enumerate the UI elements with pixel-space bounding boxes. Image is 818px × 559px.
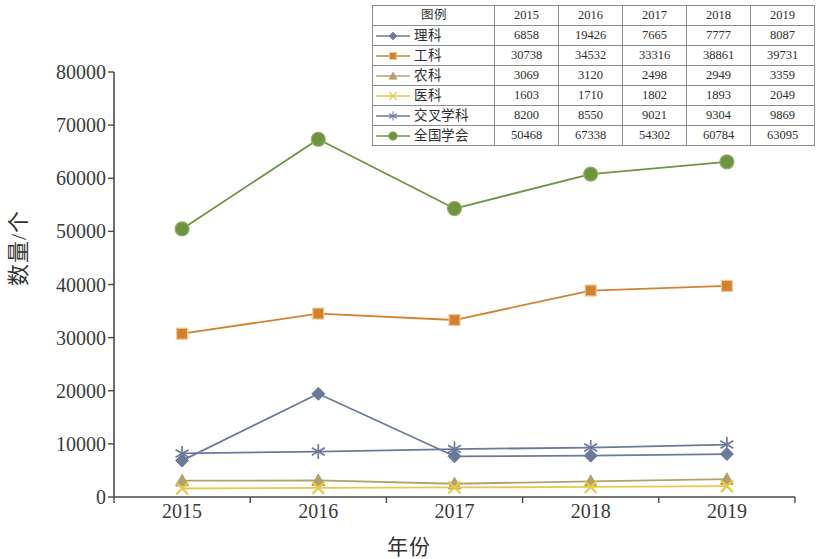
legend-value-理科-2017: 7665	[623, 26, 687, 46]
legend-value-农科-2016: 3120	[559, 66, 623, 86]
legend-value-农科-2017: 2498	[623, 66, 687, 86]
legend-value-农科-2019: 3359	[751, 66, 815, 86]
legend-marker-circle-icon	[376, 129, 410, 143]
datapoint-全国学会-2018	[584, 167, 598, 181]
legend-name-cell-交叉学科: 交叉学科	[373, 106, 495, 126]
marker-circle	[448, 202, 462, 216]
legend-marker-asterisk-icon	[376, 109, 410, 123]
legend-name-cell-理科: 理科	[373, 26, 495, 46]
marker-square	[313, 308, 324, 319]
legend-value-工科-2017: 33316	[623, 46, 687, 66]
legend-header-2019: 2019	[751, 6, 815, 26]
legend-row-工科: 工科3073834532333163886139731	[373, 46, 815, 66]
datapoint-理科-2016	[312, 387, 325, 400]
legend-row-交叉学科: 交叉学科82008550902193049869	[373, 106, 815, 126]
legend-series-label: 农科	[414, 66, 441, 85]
legend-marker-diamond-icon	[376, 29, 410, 43]
legend-value-工科-2018: 38861	[687, 46, 751, 66]
y-tick-70000: 70000	[6, 114, 106, 137]
legend-value-农科-2015: 3069	[495, 66, 559, 86]
legend-series-label: 交叉学科	[414, 106, 468, 125]
legend-value-工科-2015: 30738	[495, 46, 559, 66]
legend-series-label: 全国学会	[414, 126, 468, 145]
y-tick-60000: 60000	[6, 167, 106, 190]
datapoint-工科-2018	[585, 285, 596, 296]
legend-value-交叉学科-2018: 9304	[687, 106, 751, 126]
legend-value-医科-2015: 1603	[495, 86, 559, 106]
legend-value-医科-2016: 1710	[559, 86, 623, 106]
series-line-工科	[182, 286, 727, 334]
legend-marker-svg	[376, 69, 410, 83]
legend-header-2018: 2018	[687, 6, 751, 26]
legend-value-理科-2018: 7777	[687, 26, 751, 46]
legend-marker-svg	[376, 129, 410, 143]
legend-value-全国学会-2019: 63095	[751, 126, 815, 146]
datapoint-全国学会-2016	[311, 132, 325, 146]
legend-value-交叉学科-2015: 8200	[495, 106, 559, 126]
legend-name-cell-农科: 农科	[373, 66, 495, 86]
legend-marker-svg	[376, 49, 410, 63]
y-tick-10000: 10000	[6, 432, 106, 455]
legend-table-body: 理科685819426766577778087工科307383453233316…	[373, 26, 815, 146]
marker-square	[177, 328, 188, 339]
legend-value-理科-2019: 8087	[751, 26, 815, 46]
datapoint-工科-2015	[177, 328, 188, 339]
legend-value-交叉学科-2017: 9021	[623, 106, 687, 126]
legend-value-农科-2018: 2949	[687, 66, 751, 86]
legend-value-全国学会-2016: 67338	[559, 126, 623, 146]
x-tick-2015: 2015	[122, 500, 242, 523]
marker-square	[585, 285, 596, 296]
marker-circle	[175, 222, 189, 236]
legend-value-交叉学科-2019: 9869	[751, 106, 815, 126]
legend-header-2017: 2017	[623, 6, 687, 26]
datapoint-全国学会-2019	[720, 155, 734, 169]
legend-series-label: 医科	[414, 86, 441, 105]
legend-value-理科-2016: 19426	[559, 26, 623, 46]
datapoint-工科-2016	[313, 308, 324, 319]
legend-series-label: 工科	[414, 46, 441, 65]
series-全国学会	[175, 132, 734, 236]
legend-marker-square-icon	[376, 49, 410, 63]
marker-circle	[720, 155, 734, 169]
legend-value-理科-2015: 6858	[495, 26, 559, 46]
legend-value-全国学会-2017: 54302	[623, 126, 687, 146]
legend-name-cell-医科: 医科	[373, 86, 495, 106]
series-工科	[177, 280, 733, 339]
datapoint-工科-2017	[449, 315, 460, 326]
legend-value-工科-2016: 34532	[559, 46, 623, 66]
x-tick-2016: 2016	[258, 500, 378, 523]
legend-header-row: 图例 2015 2016 2017 2018 2019	[373, 6, 815, 26]
y-tick-0: 0	[6, 486, 106, 509]
legend-row-理科: 理科685819426766577778087	[373, 26, 815, 46]
legend-header-label: 图例	[373, 6, 495, 26]
legend-row-农科: 农科30693120249829493359	[373, 66, 815, 86]
chart-figure: 0100002000030000400005000060000700008000…	[0, 0, 818, 559]
legend-data-table: 图例 2015 2016 2017 2018 2019 理科6858194267…	[372, 5, 815, 146]
legend-marker-svg	[376, 29, 410, 43]
x-tick-2018: 2018	[531, 500, 651, 523]
legend-value-医科-2019: 2049	[751, 86, 815, 106]
legend-header-2015: 2015	[495, 6, 559, 26]
marker-square	[449, 315, 460, 326]
legend-header-2016: 2016	[559, 6, 623, 26]
marker-circle	[311, 132, 325, 146]
y-tick-20000: 20000	[6, 379, 106, 402]
marker-diamond	[389, 31, 397, 39]
legend-name-cell-工科: 工科	[373, 46, 495, 66]
legend-value-全国学会-2015: 50468	[495, 126, 559, 146]
legend-marker-svg	[376, 89, 410, 103]
y-axis-title: 数量/个	[0, 188, 32, 308]
marker-square	[721, 280, 732, 291]
x-axis-title: 年份	[0, 530, 818, 559]
legend-value-全国学会-2018: 60784	[687, 126, 751, 146]
legend-value-工科-2019: 39731	[751, 46, 815, 66]
y-tick-80000: 80000	[6, 61, 106, 84]
legend-series-label: 理科	[414, 26, 441, 45]
datapoint-全国学会-2015	[175, 222, 189, 236]
legend-row-医科: 医科16031710180218932049	[373, 86, 815, 106]
legend-value-医科-2017: 1802	[623, 86, 687, 106]
x-tick-2019: 2019	[667, 500, 787, 523]
marker-circle	[389, 131, 398, 140]
x-tick-2017: 2017	[395, 500, 515, 523]
y-tick-30000: 30000	[6, 326, 106, 349]
